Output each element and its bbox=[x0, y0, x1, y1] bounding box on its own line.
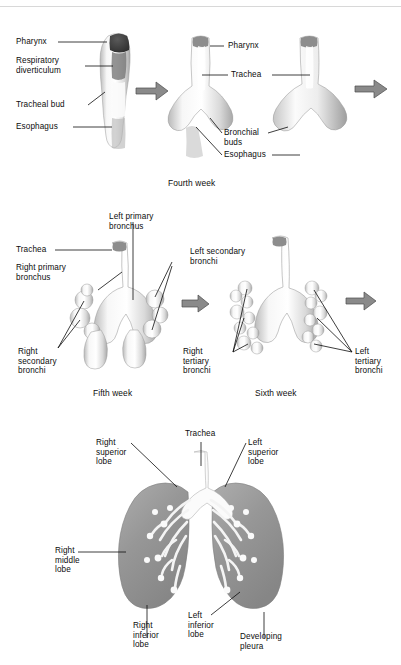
label-left-superior-lobe: Left superior lobe bbox=[248, 438, 278, 467]
label-trachea-lungs: Trachea bbox=[185, 429, 215, 439]
progression-arrow-3 bbox=[182, 295, 209, 312]
label-respiratory-diverticulum: Respiratory diverticulum bbox=[16, 56, 61, 75]
label-right-primary-bronchus: Right primary bronchus bbox=[16, 263, 66, 282]
leader-right-superior-lobe bbox=[131, 443, 177, 487]
label-trachea-mid: Trachea bbox=[231, 70, 261, 80]
label-esophagus-left: Esophagus bbox=[16, 122, 58, 132]
label-right-superior-lobe: Right superior lobe bbox=[96, 438, 126, 467]
label-bronchial-buds: Bronchial buds bbox=[224, 128, 259, 147]
progression-arrow-4 bbox=[346, 292, 376, 310]
embryo-foregut-illustration bbox=[100, 34, 130, 150]
leader-left-superior-lobe bbox=[225, 443, 246, 487]
progression-arrow-2 bbox=[355, 80, 387, 98]
leader-right-primary-bronchus bbox=[98, 272, 122, 290]
mature-lungs-illustration bbox=[118, 451, 283, 609]
label-trachea-fifth: Trachea bbox=[16, 245, 46, 255]
caption-fifth-week: Fifth week bbox=[93, 388, 132, 398]
label-right-tertiary-bronchi: Right tertiary bronchi bbox=[183, 347, 211, 376]
label-pharynx-mid: Pharynx bbox=[228, 41, 259, 51]
leader-left-secondary-1 bbox=[155, 262, 172, 297]
label-left-secondary-bronchi: Left secondary bronchi bbox=[190, 247, 245, 266]
caption-sixth-week: Sixth week bbox=[255, 388, 297, 398]
label-esophagus-mid: Esophagus bbox=[224, 150, 266, 160]
label-developing-pleura: Developing pleura bbox=[240, 632, 282, 651]
label-left-inferior-lobe: Left inferior lobe bbox=[188, 611, 214, 640]
label-right-inferior-lobe: Right inferior lobe bbox=[133, 621, 159, 650]
label-right-middle-lobe: Right middle lobe bbox=[55, 546, 80, 575]
label-pharynx-left: Pharynx bbox=[16, 37, 47, 47]
fifth-week-illustration bbox=[70, 241, 168, 369]
respiratory-development-figure: Pharynx Respiratory diverticulum Trachea… bbox=[0, 0, 401, 665]
fourth-week-trachea-advanced-illustration bbox=[273, 36, 347, 131]
progression-arrow-1 bbox=[136, 82, 168, 100]
caption-fourth-week: Fourth week bbox=[168, 178, 215, 188]
label-left-tertiary-bronchi: Left tertiary bronchi bbox=[355, 347, 383, 376]
leader-right-secondary-2 bbox=[58, 320, 80, 348]
label-right-secondary-bronchi: Right secondary bronchi bbox=[18, 347, 57, 376]
label-tracheal-bud: Tracheal bud bbox=[16, 100, 65, 110]
leader-left-inferior-lobe bbox=[211, 592, 240, 615]
label-left-primary-bronchus: Left primary bronchus bbox=[109, 212, 153, 231]
